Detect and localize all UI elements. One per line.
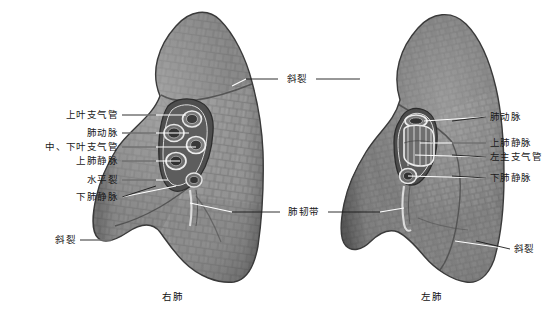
caption-right-lung: 右肺 <box>162 289 183 303</box>
label-inferior-pulm-vein-l: 下肺静脉 <box>490 173 532 183</box>
label-oblique-fissure-rl: 斜裂 <box>55 235 76 245</box>
label-superior-pulm-vein-r: 上肺静脉 <box>76 156 118 166</box>
label-horizontal-fissure: 水平裂 <box>87 175 118 185</box>
label-inferior-pulm-vein-r: 下肺静脉 <box>76 192 118 202</box>
label-pulmonary-artery-r: 肺动脉 <box>87 128 118 138</box>
label-mid-lower-bronchus: 中、下叶支气管 <box>45 142 118 152</box>
label-pulmonary-artery-l: 肺动脉 <box>490 112 521 122</box>
label-oblique-fissure-ll: 斜裂 <box>514 244 535 254</box>
label-left-main-bronchus: 左主支气管 <box>490 152 542 162</box>
caption-left-lung: 左肺 <box>421 289 442 303</box>
label-upper-lobe-bronchus: 上叶支气管 <box>66 110 118 120</box>
label-pulmonary-ligament: 肺韧带 <box>288 207 319 217</box>
label-oblique-fissure-top: 斜裂 <box>287 74 308 84</box>
label-superior-pulm-vein-l: 上肺静脉 <box>490 138 532 148</box>
